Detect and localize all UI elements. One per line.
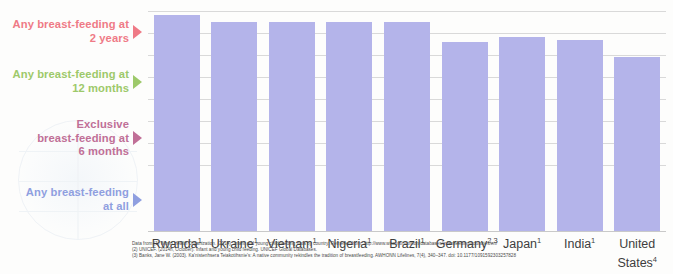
bar-group [557, 40, 603, 231]
legend-label-line2: at all [0, 200, 142, 214]
bar-group [614, 57, 660, 231]
legend-arrow-icon [133, 75, 142, 89]
bar-segment [499, 37, 545, 231]
legend-label-line2: breast-feeding at [0, 132, 142, 146]
legend-arrow-icon [133, 131, 142, 145]
legend-label-line1: Any breast-feeding [0, 186, 142, 200]
legend-label-line2: 2 years [0, 32, 142, 46]
plot-area [148, 0, 666, 232]
footnote-line-3: (3) Banks, Jane W. (2003). Ka'nistenhser… [132, 253, 672, 259]
bar-group [154, 15, 200, 231]
chart-legend: Any breast-feeding at 2 years Any breast… [0, 0, 148, 232]
legend-label-line1: Any breast-feeding at [0, 18, 142, 32]
footnotes: Data from (1) World Health Organization.… [132, 241, 672, 259]
bar-segment [211, 22, 257, 231]
bar-group [384, 22, 430, 231]
legend-arrow-icon [133, 25, 142, 39]
bar-segment [557, 40, 603, 231]
legend-item-exclusive-6-months: Exclusive breast-feeding at 6 months [0, 118, 142, 159]
bar-group [499, 37, 545, 231]
legend-label-line1: Exclusive [0, 118, 142, 132]
bar-segment [326, 22, 372, 231]
legend-label-line3: 6 months [0, 145, 142, 159]
breastfeeding-stacked-bar-chart: Any breast-feeding at 2 years Any breast… [0, 0, 673, 274]
bar-group [269, 22, 315, 231]
bar-segment [269, 22, 315, 231]
legend-item-any-2-years: Any breast-feeding at 2 years [0, 18, 142, 45]
bar-group [326, 22, 372, 231]
bar-series-container [148, 0, 666, 232]
legend-item-any-12-months: Any breast-feeding at 12 months [0, 68, 142, 95]
legend-item-any-breastfeeding-at-all: Any breast-feeding at all [0, 186, 142, 213]
bar-segment [442, 42, 488, 231]
legend-label-line2: 12 months [0, 82, 142, 96]
bar-segment [154, 15, 200, 231]
bar-segment [384, 22, 430, 231]
legend-label-line1: Any breast-feeding at [0, 68, 142, 82]
bar-group [211, 22, 257, 231]
bar-segment [614, 57, 660, 231]
bar-group [442, 42, 488, 231]
legend-arrow-icon [133, 193, 142, 207]
